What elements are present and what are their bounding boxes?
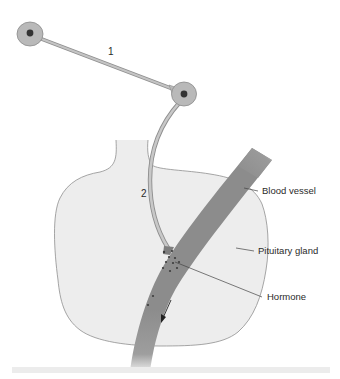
blood-vessel-label: Blood vessel [262,186,316,196]
pituitary-gland-label: Pituitary gland [258,246,318,256]
neuron-1-label: 1 [108,47,114,57]
neuron-1-nucleus [27,30,34,37]
neuron-2-nucleus [181,91,188,98]
bottom-divider-strip [12,367,330,373]
hormone-label: Hormone [267,292,306,302]
neuron-2-label: 2 [141,189,147,199]
